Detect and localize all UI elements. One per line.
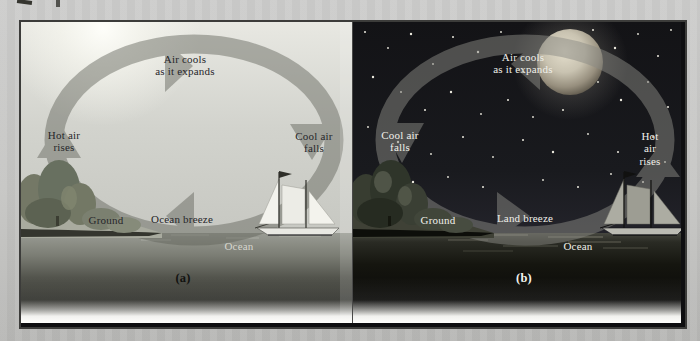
label-land-breeze: Land breeze — [497, 212, 553, 224]
label-cool-air-falls: Cool air falls — [295, 130, 332, 155]
label-ocean: Ocean — [563, 240, 592, 252]
panel-caption: (a) — [175, 271, 190, 285]
figure-frame: Air cools as it expands Hot air rises Co… — [19, 20, 687, 329]
scan-artifact — [17, 0, 32, 5]
panel-caption: (b) — [516, 271, 532, 285]
label-air-cools: Air cools as it expands — [493, 51, 552, 76]
label-ground: Ground — [421, 214, 456, 226]
label-ocean: Ocean — [224, 240, 253, 252]
panel-night-land-breeze: Air cools as it expands Cool air falls H… — [353, 22, 681, 323]
panel-day-ocean-breeze: Air cools as it expands Hot air rises Co… — [21, 22, 353, 323]
label-ocean-breeze: Ocean breeze — [151, 213, 213, 225]
textbook-figure: Air cools as it expands Hot air rises Co… — [0, 0, 700, 341]
label-cool-air-falls: Cool air falls — [381, 129, 418, 154]
scan-artifact — [56, 0, 60, 7]
label-hot-air-rises: Hot air rises — [635, 130, 666, 167]
label-ground: Ground — [89, 214, 124, 226]
label-air-cools: Air cools as it expands — [155, 53, 214, 78]
scan-streak — [340, 22, 353, 323]
label-hot-air-rises: Hot air rises — [48, 129, 80, 154]
